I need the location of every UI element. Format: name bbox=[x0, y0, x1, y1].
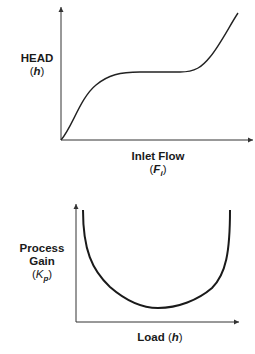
bottom-x-label: Load (h) bbox=[125, 331, 195, 344]
bottom-y-label-line2: Gain bbox=[14, 255, 70, 268]
top-y-label-text: HEAD bbox=[14, 52, 60, 65]
top-x-label-text: Inlet Flow bbox=[118, 150, 198, 163]
bottom-chart bbox=[76, 204, 239, 322]
bottom-y-label: Process Gain (Kp) bbox=[14, 242, 70, 285]
bottom-y-label-line1: Process bbox=[14, 242, 70, 255]
top-y-label: HEAD (h) bbox=[14, 52, 60, 78]
top-x-label: Inlet Flow (Fi) bbox=[118, 150, 198, 180]
gain-vs-load-curve bbox=[83, 210, 230, 308]
top-chart bbox=[61, 7, 253, 140]
head-vs-flow-curve bbox=[61, 13, 238, 140]
top-y-label-var: h bbox=[33, 65, 40, 77]
bottom-x-label-var: h bbox=[172, 331, 179, 343]
bottom-x-label-text: Load bbox=[137, 331, 164, 343]
